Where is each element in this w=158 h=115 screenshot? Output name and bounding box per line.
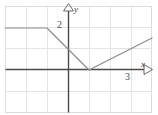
x-axis-label: x <box>141 60 145 69</box>
coordinate-plane-svg <box>0 0 158 115</box>
y-tick-label-2: 2 <box>57 20 62 30</box>
x-tick-label-3: 3 <box>125 72 130 82</box>
y-axis-label: y <box>74 5 78 14</box>
graph-canvas: y x 2 3 <box>0 0 158 115</box>
